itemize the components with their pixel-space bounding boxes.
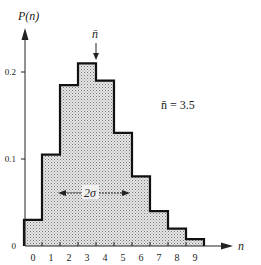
x-tick-label: 2 — [67, 252, 72, 263]
y-axis-arrow-icon — [22, 28, 29, 40]
histogram-bar — [24, 220, 42, 246]
histogram-bar — [150, 211, 168, 246]
y-tick-label: 0 — [12, 241, 17, 251]
histogram-bar — [60, 85, 78, 246]
histogram-bar — [78, 63, 96, 246]
x-tick-label: 8 — [175, 252, 180, 263]
x-tick-label: 0 — [31, 252, 36, 263]
x-tick-label: 7 — [157, 252, 162, 263]
x-tick-label: 5 — [121, 252, 126, 263]
x-axis-label: n — [238, 239, 244, 253]
y-axis-label: P(n) — [17, 9, 39, 23]
sigma-label: 2σ — [84, 186, 97, 200]
mean-value-annotation: n̄ = 3.5 — [161, 98, 195, 112]
x-tick-label: 9 — [193, 252, 198, 263]
mean-arrow-head-icon — [93, 53, 99, 60]
x-tick-label: 1 — [49, 252, 54, 263]
x-tick-label: 6 — [139, 252, 144, 263]
y-tick-label: 0.1 — [5, 154, 16, 164]
histogram-bar — [42, 155, 60, 246]
mean-marker-label: n̄ — [92, 27, 98, 41]
x-tick-label: 3 — [85, 252, 90, 263]
histogram-bar — [168, 229, 186, 246]
x-tick-label: 4 — [103, 252, 108, 263]
y-tick-label: 0.2 — [5, 67, 16, 77]
y-tick-labels: 00.10.2 — [5, 67, 25, 251]
histogram-chart: 0123456789 00.10.2 P(n) n n̄ n̄ = 3.5 2σ — [0, 0, 261, 265]
histogram-bar — [96, 81, 114, 246]
histogram-bar — [114, 133, 132, 246]
x-axis-arrow-icon — [221, 243, 233, 250]
histogram-bar — [132, 176, 150, 246]
